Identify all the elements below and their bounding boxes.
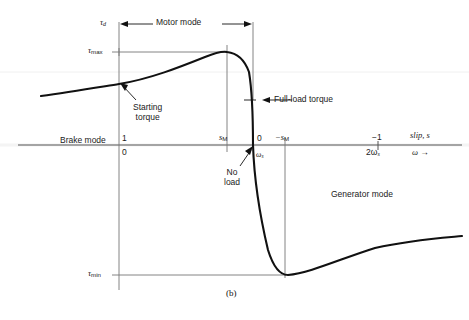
tau-max-label: τmax <box>88 46 103 56</box>
tick-label-slip-neg-one: −1 <box>372 133 382 143</box>
torque-slip-plot <box>0 0 469 320</box>
tick-label-omega-zero: 0 <box>122 148 127 158</box>
generator-mode-label: Generator mode <box>331 190 393 200</box>
no-load-annotation: No load <box>224 168 240 188</box>
slip-axis-title: slip, s <box>410 131 430 141</box>
no-load-leader <box>240 146 253 166</box>
tick-label-slip-sM: sM <box>219 133 227 143</box>
figure-caption: (b) <box>226 288 237 298</box>
tick-label-slip-neg-sM: −sM <box>275 133 289 143</box>
torque-slip-curve <box>41 52 462 275</box>
tick-label-two-omega-s: 2ωs <box>366 148 380 158</box>
tick-label-omega-s: ωs <box>256 151 264 160</box>
motor-mode-label: Motor mode <box>156 18 201 28</box>
starting-torque-annotation: Starting torque <box>133 103 162 123</box>
full-load-torque-annotation: Full-load torque <box>274 95 333 105</box>
tick-label-slip-zero: 0 <box>257 134 262 144</box>
omega-axis-title: ω → <box>412 148 429 158</box>
tau-min-label: τmin <box>88 269 101 279</box>
brake-mode-label: Brake mode <box>60 136 106 146</box>
starting-torque-leader <box>120 83 136 100</box>
tau-d-label: τd <box>100 18 106 28</box>
tick-label-slip-one: 1 <box>122 134 127 144</box>
torque-slip-figure: τd Motor mode τmax τmin Starting torque … <box>0 0 469 320</box>
